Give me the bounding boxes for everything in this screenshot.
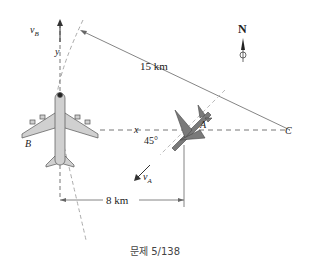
dim-arrow-right-icon (178, 198, 184, 202)
figure-caption: 문제 5/138 (0, 243, 310, 258)
distance-arrowhead-icon (80, 30, 87, 35)
compass-needle-icon (241, 38, 245, 50)
dim-arrow-left-icon (60, 198, 66, 202)
vb-label: vB (30, 24, 39, 38)
diagram-canvas: vB y 15 km N x B A C 45° vA 8 km (0, 0, 310, 267)
point-c-label: C (285, 125, 292, 136)
va-label: vA (143, 171, 152, 185)
distance-x-label: 8 km (106, 194, 129, 206)
point-b-label: B (25, 138, 31, 149)
a-heading-line (160, 90, 225, 155)
point-a-label: A (199, 119, 207, 130)
vb-arrowhead-icon (57, 19, 63, 26)
distance-bc-line (82, 31, 290, 130)
angle-label: 45° (144, 135, 158, 146)
y-axis-label: y (54, 46, 60, 57)
airliner-b-icon (22, 93, 98, 168)
compass-label: N (238, 22, 247, 36)
distance-bc-label: 15 km (140, 60, 168, 72)
x-axis-label: x (133, 124, 139, 135)
